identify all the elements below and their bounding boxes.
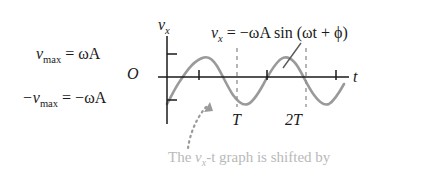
label-vertical-axis-subscript: x [165, 25, 170, 36]
caption-symbol: v [195, 149, 202, 165]
equation-label: vx = −ωA sin (ωt + ϕ) [211, 25, 348, 45]
equation-rhs: = −ωA sin (ωt + ϕ) [223, 24, 348, 41]
equation-leader-line [283, 43, 301, 68]
label-horizontal-axis: t [353, 69, 357, 85]
caption-prefix: The [168, 149, 195, 165]
label-origin: O [127, 66, 139, 82]
caption-text: The vx-t graph is shifted by [168, 150, 330, 168]
label-vmax-positive-subscript: max [43, 54, 61, 65]
label-vmax-positive: vmax = ωA [36, 46, 100, 66]
velocity-curve [167, 57, 344, 104]
tick-label-2T: 2T [285, 112, 302, 128]
shift-arrow [188, 106, 207, 148]
label-vmax-negative-subscript: max [40, 98, 58, 109]
label-vmax-negative: −vmax = −ωA [22, 90, 106, 110]
label-vertical-axis: vx [158, 17, 170, 37]
label-vmax-negative-symbol: −v [22, 89, 40, 106]
label-vmax-negative-value: = −ωA [58, 89, 106, 106]
tick-label-T: T [232, 112, 241, 128]
caption-suffix: -t graph is shifted by [206, 149, 330, 165]
label-vmax-positive-value: = ωA [61, 45, 100, 62]
velocity-time-graph-figure: vmax = ωA O −vmax = −ωA vx t vx = −ωA si… [0, 0, 444, 179]
